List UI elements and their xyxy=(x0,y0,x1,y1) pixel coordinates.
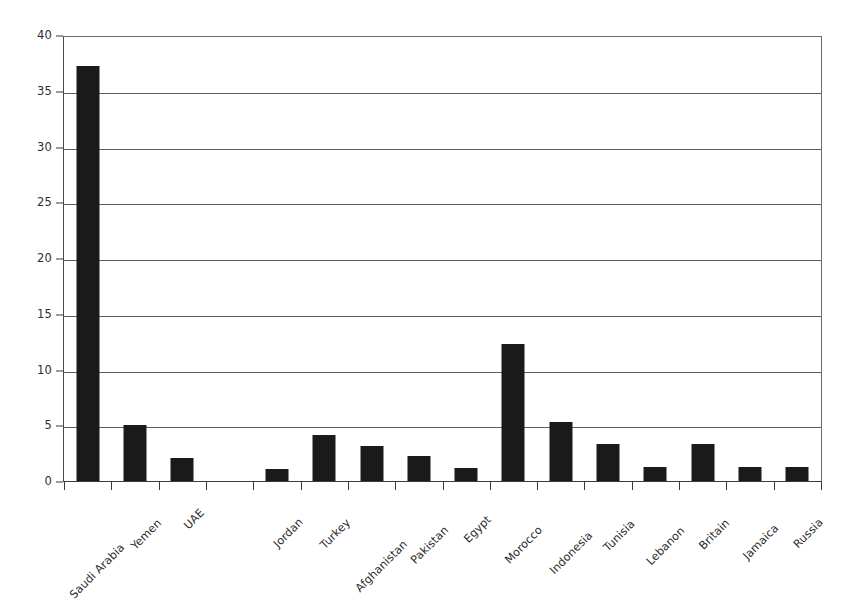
bar xyxy=(265,469,288,481)
y-tick-mark xyxy=(56,147,63,148)
bar xyxy=(644,467,667,481)
y-tick-mark xyxy=(56,259,63,260)
y-tick-label: 10 xyxy=(0,365,52,377)
bar-slot xyxy=(584,36,631,481)
bar xyxy=(549,422,572,481)
bar xyxy=(455,468,478,481)
x-tick-label: Pakistan xyxy=(408,524,451,567)
x-tick-label: Tunisia xyxy=(601,518,638,555)
bar xyxy=(786,467,809,481)
y-tick-label: 35 xyxy=(0,86,52,98)
bar-slot xyxy=(253,36,300,481)
x-tick-label: Egypt xyxy=(462,513,494,545)
bar-slot xyxy=(159,36,206,481)
bars-layer xyxy=(64,36,821,481)
bar-slot xyxy=(348,36,395,481)
x-tick-label: Lebanon xyxy=(644,524,688,568)
y-tick-mark xyxy=(56,36,63,37)
bar-slot xyxy=(774,36,821,481)
x-tick-label: Russia xyxy=(791,516,826,551)
y-tick-label: 40 xyxy=(0,30,52,42)
y-tick-mark xyxy=(56,426,63,427)
x-tick-label: Yemen xyxy=(128,517,164,553)
y-tick-label: 20 xyxy=(0,253,52,265)
bar xyxy=(691,444,714,481)
y-tick-label: 5 xyxy=(0,421,52,433)
bar-slot xyxy=(64,36,111,481)
bar xyxy=(76,66,99,481)
bar xyxy=(502,344,525,481)
x-tick-label: Indonesia xyxy=(547,529,595,577)
bar-slot xyxy=(395,36,442,481)
bar xyxy=(407,456,430,481)
bar-slot xyxy=(301,36,348,481)
bar xyxy=(123,425,146,481)
y-tick-mark xyxy=(56,203,63,204)
bar-slot xyxy=(490,36,537,481)
y-tick-mark xyxy=(56,314,63,315)
x-tick-label: UAE xyxy=(182,506,208,532)
bar xyxy=(597,444,620,481)
x-axis-labels: Saudi ArabiaYemenUAEJordanTurkeyAfghanis… xyxy=(0,482,858,581)
x-tick-label: Afghanistan xyxy=(352,538,409,595)
x-tick-label: Saudi Arabia xyxy=(67,541,127,601)
bar-slot xyxy=(111,36,158,481)
bar-slot xyxy=(726,36,773,481)
y-tick-label: 15 xyxy=(0,309,52,321)
bar xyxy=(313,435,336,481)
bar-slot xyxy=(632,36,679,481)
x-tick-label: Turkey xyxy=(318,516,353,551)
bar-slot xyxy=(679,36,726,481)
y-tick-mark xyxy=(56,91,63,92)
bar-slot xyxy=(537,36,584,481)
x-tick-label: Jordan xyxy=(271,516,306,551)
x-tick-label: Morocco xyxy=(503,524,546,567)
x-tick-label: Jamaica xyxy=(741,522,782,563)
bar-slot xyxy=(206,36,253,481)
bar-slot xyxy=(443,36,490,481)
bar xyxy=(171,458,194,481)
bar xyxy=(739,467,762,481)
x-tick-label: Britain xyxy=(696,517,732,553)
y-tick-label: 25 xyxy=(0,198,52,210)
bar xyxy=(360,446,383,481)
y-tick-mark xyxy=(56,370,63,371)
y-tick-label: 30 xyxy=(0,142,52,154)
